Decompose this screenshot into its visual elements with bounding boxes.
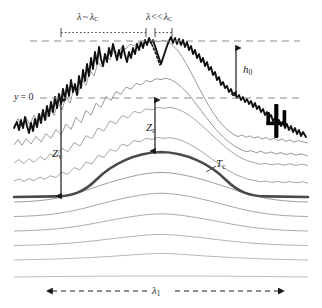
- smoothed-surface-2: [14, 78, 308, 156]
- wavelength-near-critical-bar: [61, 28, 146, 37]
- tc-subscript: c: [222, 162, 225, 171]
- saguaro-cactus-icon: [266, 104, 286, 138]
- label-tc: Tc: [216, 158, 225, 170]
- label-lambda-near-lambda-c: λ~λC: [77, 12, 99, 23]
- deep-layer-3: [14, 214, 308, 231]
- y-variable: y: [14, 91, 18, 102]
- zv-subscript: v: [58, 152, 62, 161]
- curves-layer: [0, 0, 322, 308]
- label-zv: Zv: [52, 148, 62, 160]
- smoothed-surface-1: [14, 41, 308, 143]
- h0-subscript: 0: [249, 68, 253, 77]
- lambda-symbol: λ: [77, 11, 81, 22]
- label-h0: h0: [243, 64, 252, 76]
- landscape-relief-figure: λ~λC λ<<λC y= 0 Zv Zr h0 Tc λ1: [0, 0, 322, 308]
- label-y-equals-zero: y= 0: [14, 92, 34, 102]
- label-lambda-much-less-lambda-c: λ<<λC: [146, 12, 173, 23]
- relation-symbol: <<: [151, 11, 162, 22]
- lambda-symbol: λ: [146, 11, 150, 22]
- basal-layer: [14, 276, 308, 277]
- lambda1-subscript: 1: [157, 289, 161, 298]
- lambda-c-subscript: C: [94, 15, 99, 22]
- lambda-c-subscript: C: [168, 15, 173, 22]
- y-equals-value: = 0: [20, 91, 33, 102]
- relation-symbol: ~: [83, 11, 88, 22]
- deep-layer-5: [14, 253, 308, 260]
- deep-layer-4: [14, 234, 308, 245]
- label-lambda1: λ1: [152, 285, 161, 297]
- zr-subscript: r: [152, 126, 155, 135]
- wavelength-much-less-critical-bar: [155, 28, 172, 37]
- label-zr: Zr: [146, 122, 155, 134]
- rough-topographic-surface: [14, 37, 306, 137]
